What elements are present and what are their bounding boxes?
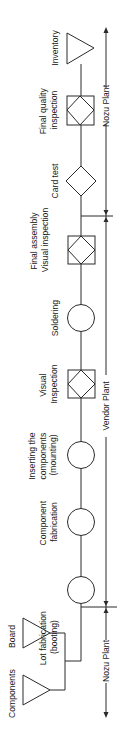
arrow-down-icon [104, 601, 109, 606]
step-label: Visual Inspection [38, 364, 59, 403]
step-final-assembly-visual-inspection: Final assembly Visual inspection [29, 208, 95, 273]
arrow-down-icon [104, 210, 109, 215]
operation-circle-icon [68, 577, 95, 604]
step-soldering: Soldering [50, 300, 95, 337]
operation-circle-icon [68, 442, 95, 469]
arrow-up-icon [104, 608, 109, 613]
arrow-up-icon [104, 217, 109, 222]
step-final-quality-inspection: Final quality inspection [38, 86, 94, 134]
step-label: Final assembly Visual inspection [29, 208, 50, 273]
step-label: Lot fabrication (booting) [38, 609, 59, 665]
operation-circle-icon [68, 509, 95, 536]
section-label-nozu-plant-start: Nozu Plant [101, 639, 111, 682]
step-inserting-components: Inserting the components (mounting) [27, 430, 95, 480]
arrow-up-icon [104, 27, 109, 33]
step-visual-inspection: Visual Inspection [38, 364, 95, 403]
process-flow-diagram: Board Components Lot fabrication (bootin… [0, 0, 123, 755]
step-label: Card test [50, 163, 60, 198]
section-label-nozu-plant-end: Nozu Plant [101, 84, 111, 127]
step-label: Component fabrication [38, 499, 59, 546]
arrow-down-icon [104, 712, 109, 718]
step-label: Inserting the components (mounting) [27, 430, 58, 480]
step-inventory: Inventory [50, 30, 94, 66]
step-card-test: Card test [50, 163, 96, 198]
operation-circle-icon [68, 305, 95, 332]
step-label: Inventory [50, 30, 60, 66]
step-lot-fabrication: Lot fabrication (booting) [38, 577, 95, 666]
inspection-diamond-icon [66, 166, 96, 196]
step-label: Soldering [50, 300, 60, 337]
input-components: Components [7, 669, 50, 718]
components-triangle-icon [23, 675, 50, 705]
components-label: Components [7, 669, 17, 718]
section-label-vendor-plant: Vendor Plant [101, 381, 111, 431]
step-label: Final quality inspection [38, 86, 59, 134]
board-label: Board [7, 625, 17, 648]
step-component-fabrication: Component fabrication [38, 499, 95, 546]
storage-triangle-icon [67, 33, 94, 64]
